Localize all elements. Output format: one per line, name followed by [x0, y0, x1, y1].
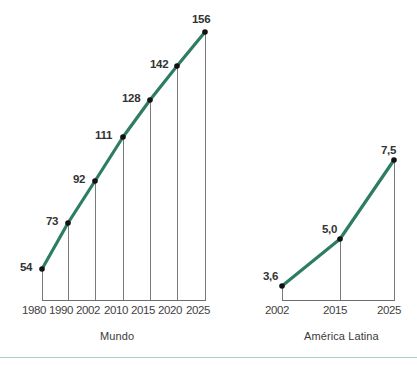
right-chart-series-line	[282, 160, 394, 286]
left-chart-value-label-1990: 73	[46, 216, 58, 228]
footer-area	[0, 358, 417, 366]
right-chart-tick-2015: 2015	[323, 305, 347, 317]
left-chart-marker-2025	[202, 29, 208, 35]
right-chart-marker-2025	[391, 157, 397, 163]
left-chart-value-label-2015: 128	[122, 93, 140, 105]
left-chart-marker-2002	[92, 178, 98, 184]
right-chart-marker-2002	[279, 283, 285, 289]
left-chart-tick-1980: 1980	[22, 305, 46, 317]
left-chart-tick-2002: 2002	[76, 305, 100, 317]
left-chart-tick-1990: 1990	[49, 305, 73, 317]
chart-figure: 54 73 92 111 128 142 156 1980 1990 2002 …	[0, 0, 417, 366]
left-chart-tick-2020: 2020	[158, 305, 182, 317]
right-chart-tick-2002: 2002	[265, 305, 289, 317]
right-chart-marker-2015	[337, 236, 343, 242]
right-chart-value-label-2002: 3,6	[263, 271, 278, 283]
left-chart-tick-2025: 2025	[186, 305, 210, 317]
left-chart-caption: Mundo	[100, 331, 134, 342]
right-chart-caption: América Latina	[304, 331, 379, 342]
right-chart-tick-2025: 2025	[377, 305, 401, 317]
right-chart-value-label-2025: 7,5	[381, 145, 396, 157]
left-chart-tick-2015: 2015	[131, 305, 155, 317]
left-chart-value-label-1980: 54	[20, 262, 32, 274]
left-chart-value-label-2002: 92	[73, 174, 85, 186]
left-chart-value-label-2020: 142	[150, 59, 168, 71]
left-chart-marker-1980	[39, 266, 45, 272]
left-chart-marker-2015	[147, 97, 153, 103]
left-chart-marker-2020	[174, 63, 180, 69]
right-chart-markers	[279, 157, 397, 289]
left-chart-marker-1990	[65, 220, 71, 226]
left-chart-axes	[42, 32, 206, 301]
left-chart-value-label-2010: 111	[95, 130, 112, 142]
left-chart-marker-2010	[120, 134, 126, 140]
left-chart-value-label-2025: 156	[192, 14, 210, 26]
right-chart-value-label-2015: 5,0	[322, 224, 337, 236]
left-chart-tick-2010: 2010	[104, 305, 128, 317]
